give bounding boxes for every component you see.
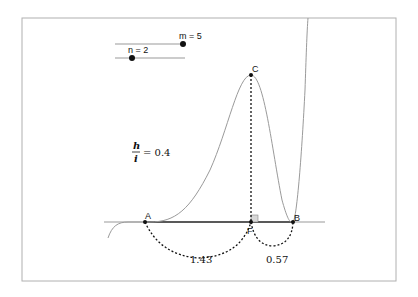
ratio-numerator: h <box>133 140 140 151</box>
geometry-canvas: m = 5 n = 2 h i = 0.4 A B C F 1.43 0.57 <box>0 0 418 297</box>
arc-fb <box>251 222 293 246</box>
slider-m-handle[interactable] <box>180 41 186 47</box>
slider-n-label: n = 2 <box>128 45 148 55</box>
slider-m-label: m = 5 <box>179 31 202 41</box>
label-f: F <box>247 226 253 236</box>
measure-af: 1.43 <box>190 254 212 265</box>
point-f[interactable] <box>249 220 253 224</box>
label-c: C <box>252 64 259 74</box>
ratio-denominator: i <box>134 153 138 164</box>
arc-af <box>145 222 251 258</box>
label-a: A <box>145 211 151 221</box>
measure-fb: 0.57 <box>266 254 288 265</box>
slider-n[interactable]: n = 2 <box>115 45 185 61</box>
label-b: B <box>294 213 300 223</box>
ratio-value: = 0.4 <box>143 147 170 158</box>
slider-n-handle[interactable] <box>129 55 135 61</box>
canvas-frame <box>22 18 396 281</box>
ratio-text: h i = 0.4 <box>132 140 170 164</box>
